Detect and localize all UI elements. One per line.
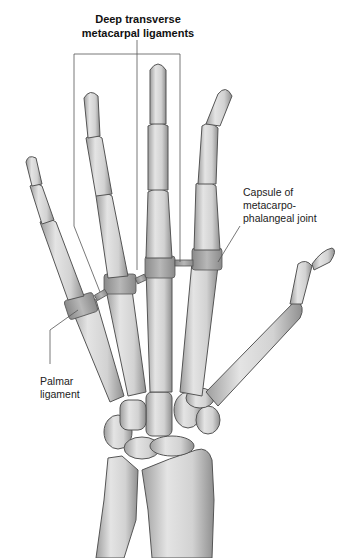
palmar-ligament-label: Palmar ligament [40,375,80,401]
hand-ligament-diagram: Deep transverse metacarpal ligaments Cap… [0,0,361,558]
capsule-of-metacarpophalangeal-joint-label: Capsule of metacarpo- phalangeal joint [243,186,317,225]
capsule-leader [218,226,240,262]
forearm-bones [96,449,214,558]
metacarpal-bones [68,260,302,406]
middle-phalanges [30,123,218,224]
hand-skeleton-illustration [0,0,361,558]
deep-transverse-metacarpal-ligaments-label: Deep transverse metacarpal ligaments [68,12,208,40]
carpal-bones [104,388,220,459]
